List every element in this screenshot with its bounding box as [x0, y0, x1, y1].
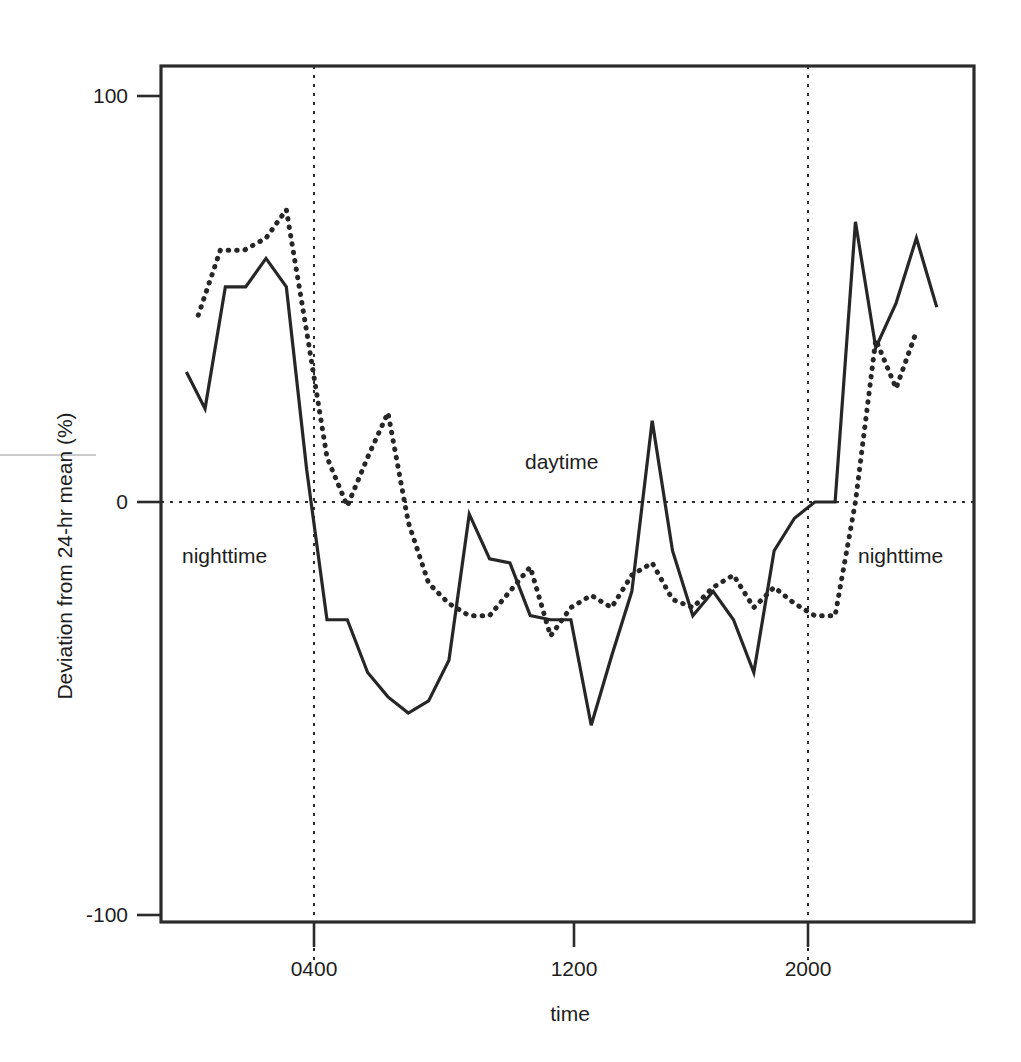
chart-background [0, 0, 1021, 1062]
x-tick-label-0400: 0400 [291, 957, 338, 980]
y-axis-title: Deviation from 24-hr mean (%) [53, 412, 76, 699]
x-tick-label-2000: 2000 [785, 957, 832, 980]
y-tick-label-0: 0 [116, 490, 128, 513]
annotation-nighttime-left: nighttime [182, 544, 267, 567]
chart-figure: 100 0 -100 0400 1200 2000 time Deviation… [0, 0, 1021, 1062]
y-tick-label-100: 100 [93, 84, 128, 107]
circadian-deviation-line-chart: 100 0 -100 0400 1200 2000 time Deviation… [0, 0, 1021, 1062]
x-tick-label-1200: 1200 [551, 957, 598, 980]
annotation-daytime: daytime [525, 450, 599, 473]
x-axis-title: time [550, 1002, 590, 1025]
annotation-nighttime-right: nighttime [858, 544, 943, 567]
y-tick-label-neg100: -100 [86, 903, 128, 926]
